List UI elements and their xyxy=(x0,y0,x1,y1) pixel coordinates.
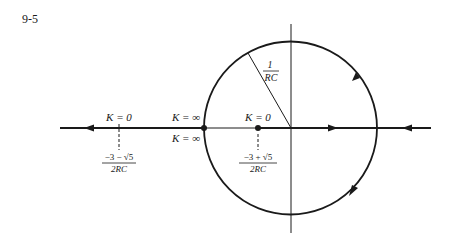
arrow-right-icon xyxy=(328,125,338,132)
k-infinity-point xyxy=(201,125,207,131)
k-zero-point-right xyxy=(255,125,261,131)
left-root-den: 2RC xyxy=(111,164,128,174)
radius-label-num: 1 xyxy=(268,59,273,70)
right-root-num: −3 + √5 xyxy=(244,152,273,162)
root-locus-diagram: 1 RC K = 0 K = ∞ K = ∞ K = 0 −3 − √5 2RC… xyxy=(0,0,451,240)
right-root-den: 2RC xyxy=(250,164,267,174)
k-zero-label-left: K = 0 xyxy=(105,111,132,123)
arrow-left-icon xyxy=(84,125,94,132)
arrow-left-icon xyxy=(402,125,412,132)
radius-label-den: RC xyxy=(264,72,278,83)
k-zero-label-right: K = 0 xyxy=(244,111,271,123)
arrow-up-left-icon xyxy=(352,72,360,81)
k-infinity-label-bottom: K = ∞ xyxy=(171,132,200,144)
k-infinity-label-top: K = ∞ xyxy=(171,111,200,123)
left-root-num: −3 − √5 xyxy=(105,152,134,162)
